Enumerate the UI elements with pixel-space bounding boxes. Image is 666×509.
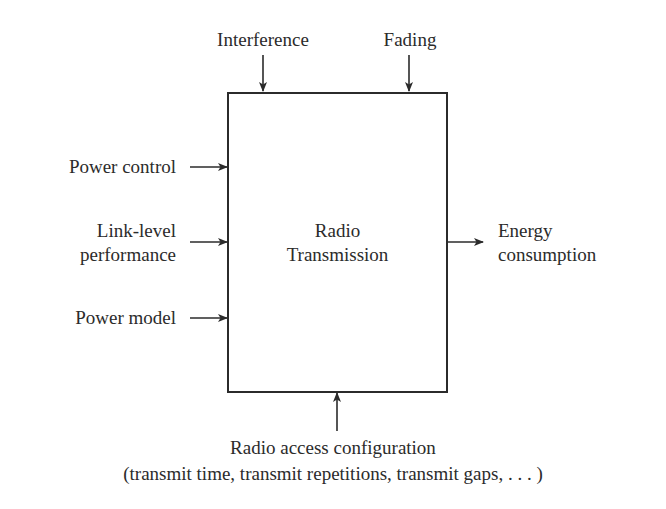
- power-control-label: Power control: [0, 155, 176, 179]
- fading-label: Fading: [360, 28, 460, 52]
- block-label: Radio Transmission: [227, 219, 448, 267]
- radio-access-label-line1: Radio access configuration: [0, 436, 666, 460]
- link-level-label-line2: performance: [0, 243, 176, 267]
- radio-access-label-line2: (transmit time, transmit repetitions, tr…: [0, 462, 666, 486]
- energy-label-line2: consumption: [498, 243, 666, 267]
- energy-consumption-label: Energy consumption: [498, 219, 666, 267]
- radio-access-configuration-label: Radio access configuration (transmit tim…: [0, 436, 666, 486]
- link-level-performance-label: Link-level performance: [0, 219, 176, 267]
- block-label-line1: Radio: [227, 219, 448, 243]
- interference-label: Interference: [193, 28, 333, 52]
- power-model-label: Power model: [0, 306, 176, 330]
- energy-label-line1: Energy: [498, 219, 666, 243]
- block-label-line2: Transmission: [227, 243, 448, 267]
- link-level-label-line1: Link-level: [0, 219, 176, 243]
- diagram-canvas: Radio Transmission Interference Fading P…: [0, 0, 666, 509]
